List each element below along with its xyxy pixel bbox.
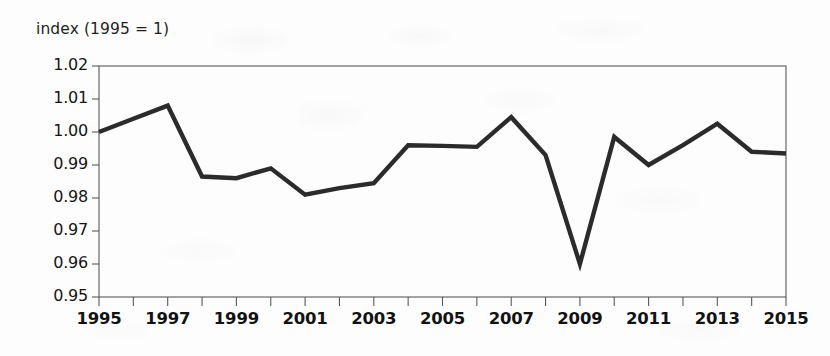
x-tick-label: 2003 (351, 309, 396, 328)
x-tick-label: 1995 (76, 309, 121, 328)
chart-figure: index (1995 = 1) 1.021.011.000.990.980.9… (0, 0, 830, 356)
x-tick-label: 2013 (695, 309, 740, 328)
x-tick-label: 1997 (145, 309, 190, 328)
x-axis-tick-labels: 1995199719992001200320052007200920112013… (0, 0, 830, 356)
x-tick-label: 2015 (763, 309, 808, 328)
x-tick-label: 2001 (283, 309, 328, 328)
x-tick-label: 2007 (489, 309, 534, 328)
x-tick-label: 1999 (214, 309, 259, 328)
x-tick-label: 2005 (420, 309, 465, 328)
x-tick-label: 2011 (626, 309, 671, 328)
x-tick-label: 2009 (557, 309, 602, 328)
